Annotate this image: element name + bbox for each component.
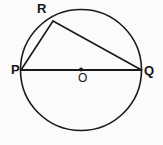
segment-rq [53,21,142,70]
center-label-o: O [78,72,87,84]
vertex-label-q: Q [144,64,154,77]
geometry-figure: R P Q O [0,0,163,145]
vertex-label-r: R [37,2,46,15]
vertex-label-p: P [11,63,20,76]
